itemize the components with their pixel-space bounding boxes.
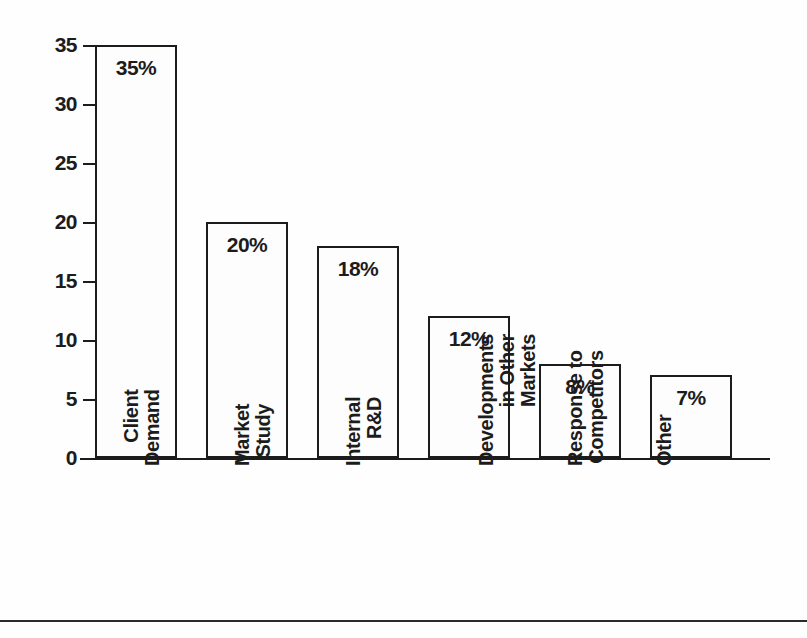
x-axis-label-text: MarketStudy (232, 404, 274, 466)
y-axis-tick-label: 20 (37, 211, 77, 232)
y-axis-tick-mark (83, 45, 95, 47)
bar-value-label: 35% (97, 56, 175, 80)
y-axis-tick-mark (83, 281, 95, 283)
y-axis-tick-mark (83, 222, 95, 224)
y-axis-tick-mark (83, 399, 95, 401)
x-axis-label-line: in Other (497, 334, 518, 466)
y-axis-tick-label: 25 (37, 152, 77, 173)
plot-area: 05101520253035 35%20%18%12%8%7% ClientDe… (0, 0, 807, 638)
bar-chart-figure: 05101520253035 35%20%18%12%8%7% ClientDe… (0, 0, 807, 638)
x-axis-label-text: Other (654, 415, 675, 466)
x-axis-label-line: Study (253, 404, 274, 466)
x-axis-label-text: InternalR&D (343, 397, 385, 466)
x-axis-label-line: Internal (343, 397, 364, 466)
y-axis-tick-mark (83, 104, 95, 106)
bar-value-label: 18% (319, 257, 397, 281)
x-axis-label-text: Response toCompetitors (565, 350, 607, 466)
x-axis-label-line: Markets (518, 334, 539, 466)
y-axis-tick-label: 5 (37, 388, 77, 409)
y-axis-tick-mark (83, 163, 95, 165)
page-bottom-rule (0, 620, 807, 622)
x-axis-label-line: Market (232, 404, 253, 466)
y-axis-tick-label: 0 (37, 447, 77, 468)
x-axis-label-line: Demand (142, 389, 163, 466)
x-axis-label-text: ClientDemand (121, 389, 163, 466)
x-axis-label-line: Response to (565, 350, 586, 466)
y-axis-tick-label: 35 (37, 34, 77, 55)
bar-value-label: 7% (652, 386, 730, 410)
x-axis-label-line: Competitors (586, 350, 607, 466)
x-axis-label-line: R&D (364, 397, 385, 466)
x-axis-label-line: Other (654, 415, 675, 466)
x-axis-label-line: Client (121, 389, 142, 466)
y-axis-tick-label: 30 (37, 93, 77, 114)
y-axis-tick-mark (83, 340, 95, 342)
y-axis-tick-label: 15 (37, 270, 77, 291)
y-axis-tick-label: 10 (37, 329, 77, 350)
bar-value-label: 20% (208, 233, 286, 257)
x-axis-label-text: Developmentsin OtherMarkets (476, 334, 540, 466)
x-axis-label-line: Developments (476, 334, 497, 466)
